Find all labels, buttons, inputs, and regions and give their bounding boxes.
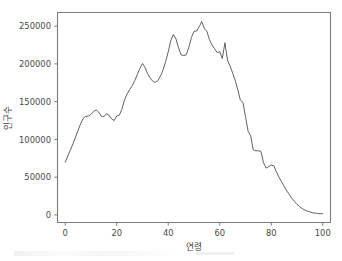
y-tick-label: 250000	[19, 21, 51, 31]
x-tick-label: 20	[111, 228, 122, 238]
x-axis-title: 연령	[186, 241, 202, 252]
y-tick-label: 50000	[24, 172, 51, 182]
y-tick-label: 0	[46, 210, 51, 220]
x-tick-label: 80	[266, 228, 277, 238]
y-tick-label: 100000	[19, 135, 51, 145]
y-tick-label: 150000	[19, 97, 51, 107]
population-by-age-line-chart: 0500001000001500002000002500000204060801…	[0, 0, 342, 261]
x-tick-label: 60	[214, 228, 225, 238]
y-tick-label: 200000	[19, 59, 51, 69]
scan-artifact	[14, 251, 174, 256]
y-axis-title: 인구수	[3, 106, 13, 130]
x-tick-label: 0	[63, 228, 68, 238]
x-tick-label: 100	[315, 228, 331, 238]
scan-artifact-secondary	[196, 252, 234, 255]
x-tick-label: 40	[163, 228, 174, 238]
chart-figure: 0500001000001500002000002500000204060801…	[0, 0, 342, 261]
